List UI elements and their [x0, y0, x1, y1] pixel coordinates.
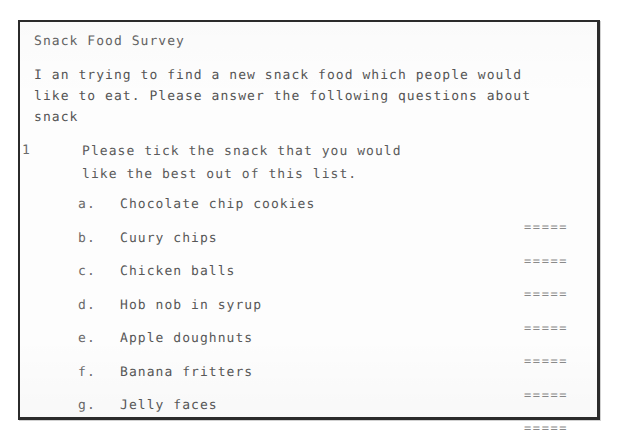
- option-letter: c.: [78, 261, 96, 283]
- survey-sheet: Snack Food Survey I an trying to find a …: [18, 20, 600, 420]
- option-label: Cuury chips: [120, 228, 218, 250]
- option-label: Jelly faces: [120, 395, 218, 417]
- intro-line: snack: [34, 107, 531, 128]
- question-text: Please tick the snack that you wouldlike…: [82, 140, 402, 186]
- option-label: Chocolate chip cookies: [120, 194, 315, 216]
- option-letter: d.: [78, 295, 96, 317]
- question-text-line: like the best out of this list.: [82, 163, 402, 186]
- document-page: Snack Food Survey I an trying to find a …: [0, 0, 617, 435]
- option-letter: e.: [78, 328, 96, 350]
- page-title: Snack Food Survey: [34, 31, 185, 53]
- question-number: 1: [22, 140, 31, 162]
- question-text-line: Please tick the snack that you would: [82, 140, 402, 163]
- option-label: Apple doughnuts: [120, 328, 253, 350]
- option-letter: g.: [78, 395, 96, 417]
- intro-line: like to eat. Please answer the following…: [34, 86, 531, 107]
- option-letter: f.: [78, 362, 96, 384]
- option-letter: b.: [78, 228, 96, 250]
- option-label: Hob nob in syrup: [120, 295, 262, 317]
- answer-rule[interactable]: =====: [524, 417, 568, 435]
- option-label: Chicken balls: [120, 261, 235, 283]
- option-letter: a.: [78, 194, 96, 216]
- list-item[interactable]: g.Jelly faces=====: [20, 395, 597, 435]
- intro-paragraph: I an trying to find a new snack food whi…: [34, 65, 531, 128]
- intro-line: I an trying to find a new snack food whi…: [34, 65, 531, 86]
- option-label: Banana fritters: [120, 362, 253, 384]
